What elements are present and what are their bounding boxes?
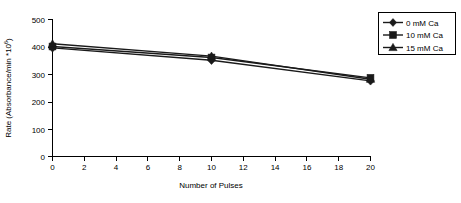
line-chart: 500 400 300 200 100 0 Rate (Absorbance/m… <box>0 0 461 203</box>
y-axis-title-main: Rate (Absorbance/min *10 <box>4 43 13 137</box>
legend-label-1: 10 mM Ca <box>406 31 443 40</box>
data-series-layer <box>48 40 374 85</box>
x-tick-label-4: 4 <box>114 163 119 172</box>
y-tick-label-500: 500 <box>32 16 46 25</box>
x-tick-label-2: 2 <box>82 163 87 172</box>
x-axis-title: Number of Pulses <box>179 181 243 190</box>
y-tick-label-300: 300 <box>32 71 46 80</box>
y-axis-tick-labels: 500 400 300 200 100 0 <box>32 16 46 162</box>
x-tick-label-0: 0 <box>50 163 55 172</box>
legend-label-0: 0 mM Ca <box>406 19 439 28</box>
x-axis-tick-labels: 0 2 4 6 8 10 12 14 16 18 20 <box>50 163 375 172</box>
x-tick-label-14: 14 <box>271 163 280 172</box>
y-tick-label-200: 200 <box>32 98 46 107</box>
y-axis-title: Rate (Absorbance/min *106) <box>3 38 13 138</box>
x-axis: 0 2 4 6 8 10 12 14 16 18 20 Number of Pu… <box>50 157 375 191</box>
x-tick-label-10: 10 <box>207 163 216 172</box>
y-axis-title-group: Rate (Absorbance/min *106) <box>3 38 13 138</box>
x-tick-label-8: 8 <box>177 163 182 172</box>
x-tick-label-6: 6 <box>146 163 151 172</box>
y-axis-ticks <box>48 20 53 157</box>
legend-label-2: 15 mM Ca <box>406 44 443 53</box>
chart-legend: 0 mM Ca 10 mM Ca 15 mM Ca <box>379 13 456 55</box>
y-tick-label-0: 0 <box>41 153 46 162</box>
y-tick-label-100: 100 <box>32 126 46 135</box>
x-tick-label-16: 16 <box>302 163 311 172</box>
square-marker-icon <box>390 32 397 39</box>
x-tick-label-12: 12 <box>239 163 248 172</box>
y-axis: 500 400 300 200 100 0 Rate (Absorbance/m… <box>3 16 53 162</box>
y-axis-title-close: ) <box>4 38 13 41</box>
chart-figure: 500 400 300 200 100 0 Rate (Absorbance/m… <box>0 0 461 203</box>
legend-item-1[interactable]: 10 mM Ca <box>383 31 443 40</box>
y-tick-label-400: 400 <box>32 43 46 52</box>
x-tick-label-20: 20 <box>366 163 375 172</box>
x-axis-ticks <box>53 157 371 162</box>
x-tick-label-18: 18 <box>334 163 343 172</box>
